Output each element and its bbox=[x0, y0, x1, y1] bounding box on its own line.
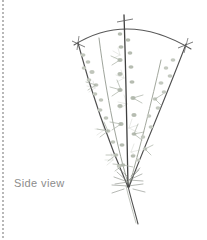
cane-right-inner bbox=[129, 60, 161, 186]
foliage-left-cane bbox=[81, 53, 122, 168]
foliage-right-cane bbox=[136, 58, 176, 161]
root-stem bbox=[126, 186, 138, 224]
cane-center bbox=[117, 15, 133, 186]
lateral-shoots bbox=[86, 56, 163, 171]
support-arc bbox=[74, 29, 191, 49]
tie-mark-center bbox=[117, 19, 133, 22]
plant-illustration bbox=[0, 0, 207, 240]
support-arc-group bbox=[74, 29, 191, 49]
figure-caption: Side view bbox=[14, 177, 65, 189]
figure-side-view: Side view bbox=[0, 0, 207, 240]
